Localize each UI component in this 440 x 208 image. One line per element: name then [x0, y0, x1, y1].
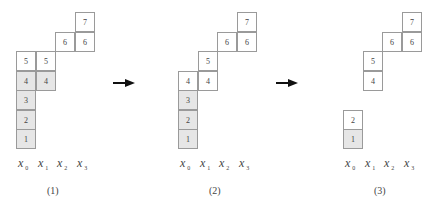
column-label: x1: [200, 156, 210, 171]
arrow-right-icon: [276, 79, 298, 87]
grid-cell: 3: [16, 90, 36, 110]
grid-cell: 4: [198, 71, 218, 91]
grid-cell: 7: [237, 12, 257, 32]
variable-subscript: 0: [187, 165, 190, 171]
column-label: x0: [180, 156, 190, 171]
arrow-right-icon: [113, 79, 135, 87]
variable-subscript: 0: [25, 165, 28, 171]
grid-cell: 4: [363, 71, 383, 91]
column-label: x0: [345, 156, 355, 171]
grid-cell: 4: [36, 71, 56, 91]
column-label: x0: [18, 156, 28, 171]
variable-name: x: [200, 156, 205, 170]
grid-cell: 6: [75, 32, 95, 52]
variable-subscript: 2: [64, 165, 67, 171]
grid-cell: 6: [237, 32, 257, 52]
variable-subscript: 3: [246, 165, 249, 171]
variable-name: x: [38, 156, 43, 170]
variable-subscript: 1: [207, 165, 210, 171]
variable-subscript: 2: [226, 165, 229, 171]
grid-cell: 3: [178, 90, 198, 110]
grid-cell: 4: [16, 71, 36, 91]
grid-cell: 1: [343, 129, 363, 149]
column-label: x2: [384, 156, 394, 171]
grid-cell: 6: [217, 32, 237, 52]
variable-name: x: [239, 156, 244, 170]
column-label: x1: [365, 156, 375, 171]
grid-cell: 2: [178, 110, 198, 130]
variable-subscript: 0: [352, 165, 355, 171]
variable-name: x: [57, 156, 62, 170]
grid-cell: 7: [402, 12, 422, 32]
variable-name: x: [365, 156, 370, 170]
column-label: x3: [239, 156, 249, 171]
variable-name: x: [219, 156, 224, 170]
grid-cell: 5: [363, 51, 383, 71]
variable-name: x: [345, 156, 350, 170]
grid-cell: 4: [178, 71, 198, 91]
column-label: x3: [404, 156, 414, 171]
grid-cell: 6: [55, 32, 75, 52]
column-label: x2: [57, 156, 67, 171]
variable-name: x: [18, 156, 23, 170]
grid-cell: 2: [16, 110, 36, 130]
variable-subscript: 3: [411, 165, 414, 171]
panel-caption: (3): [374, 185, 386, 196]
panel-3: 7665421x0x1x2x3(3): [343, 0, 440, 208]
variable-subscript: 1: [372, 165, 375, 171]
variable-name: x: [180, 156, 185, 170]
grid-cell: 7: [75, 12, 95, 32]
panel-caption: (1): [47, 185, 59, 196]
panel-caption: (2): [209, 185, 221, 196]
grid-cell: 1: [16, 129, 36, 149]
grid-cell: 5: [16, 51, 36, 71]
variable-subscript: 2: [391, 165, 394, 171]
grid-cell: 5: [198, 51, 218, 71]
grid-cell: 6: [382, 32, 402, 52]
panel-1: 7665544321x0x1x2x3(1): [16, 0, 126, 208]
grid-cell: 5: [36, 51, 56, 71]
variable-subscript: 3: [84, 165, 87, 171]
variable-name: x: [384, 156, 389, 170]
grid-cell: 2: [343, 110, 363, 130]
variable-name: x: [77, 156, 82, 170]
grid-cell: 1: [178, 129, 198, 149]
variable-name: x: [404, 156, 409, 170]
column-label: x1: [38, 156, 48, 171]
column-label: x3: [77, 156, 87, 171]
variable-subscript: 1: [45, 165, 48, 171]
grid-cell: 6: [402, 32, 422, 52]
panel-2: 766544321x0x1x2x3(2): [178, 0, 288, 208]
column-label: x2: [219, 156, 229, 171]
